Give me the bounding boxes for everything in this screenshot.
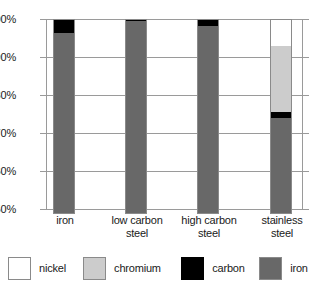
x-axis-label-line: stainless — [234, 214, 325, 227]
gridline-60 — [46, 171, 303, 172]
legend-swatch-carbon-icon — [181, 257, 204, 280]
legend-swatch-iron-icon — [259, 257, 282, 280]
x-axis-label-stainless-steel: stainless steel — [234, 214, 325, 239]
y-tick-right-80 — [303, 95, 309, 96]
bar-segment-iron — [125, 21, 147, 214]
y-axis-label-60: 60% — [0, 165, 16, 177]
legend-label-chromium: chromium — [114, 262, 161, 274]
gridline-70 — [46, 133, 303, 134]
plot-area — [46, 19, 303, 209]
y-axis-line-left — [46, 19, 47, 209]
y-axis-label-80: 80% — [0, 89, 16, 101]
stacked-bar-chart: 100% 90% 80% 70% 60% 50% — [0, 0, 325, 291]
y-tick-90 — [40, 57, 46, 58]
chart-legend: nickel chromium carbon iron — [8, 252, 317, 284]
y-axis-label-90: 90% — [0, 51, 16, 63]
bar-segment-iron — [53, 33, 75, 214]
y-axis-label-50: 50% — [0, 203, 16, 215]
x-axis-label-line: steel — [234, 227, 325, 240]
gridline-100 — [46, 19, 303, 20]
legend-item-iron: iron — [259, 257, 317, 280]
y-axis-label-70: 70% — [0, 127, 16, 139]
bar-segment-nickel — [270, 19, 292, 46]
legend-item-chromium: chromium — [83, 257, 181, 280]
bar-iron — [53, 19, 75, 214]
legend-label-nickel: nickel — [39, 262, 66, 274]
bar-segment-iron — [197, 26, 219, 214]
y-tick-right-50 — [303, 209, 309, 210]
y-tick-60 — [40, 171, 46, 172]
bar-segment-chromium — [270, 46, 292, 112]
legend-label-iron: iron — [290, 262, 308, 274]
bar-stainless-steel — [270, 19, 292, 214]
bar-segment-iron — [270, 118, 292, 214]
y-tick-right-60 — [303, 171, 309, 172]
y-tick-right-90 — [303, 57, 309, 58]
gridline-50 — [46, 209, 303, 210]
y-axis-line-right — [302, 19, 303, 209]
gridline-80 — [46, 95, 303, 96]
bar-low-carbon-steel — [125, 19, 147, 214]
legend-item-carbon: carbon — [181, 257, 259, 280]
bar-segment-carbon — [197, 19, 219, 26]
legend-label-carbon: carbon — [212, 262, 244, 274]
bar-high-carbon-steel — [197, 19, 219, 214]
y-tick-100 — [40, 19, 46, 20]
y-tick-50 — [40, 209, 46, 210]
legend-swatch-chromium-icon — [83, 257, 106, 280]
y-tick-right-100 — [303, 19, 309, 20]
legend-swatch-nickel-icon — [8, 257, 31, 280]
y-tick-70 — [40, 133, 46, 134]
gridline-90 — [46, 57, 303, 58]
y-tick-right-70 — [303, 133, 309, 134]
legend-item-nickel: nickel — [8, 257, 83, 280]
y-tick-80 — [40, 95, 46, 96]
bar-segment-carbon — [53, 19, 75, 33]
y-axis-label-100: 100% — [0, 13, 16, 25]
